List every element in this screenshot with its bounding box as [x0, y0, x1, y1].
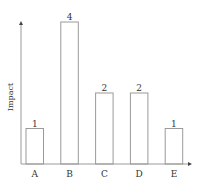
data-label-e: 1 [171, 119, 177, 129]
data-label-d: 2 [136, 83, 142, 93]
x-tick-label-a: A [31, 169, 39, 179]
x-tick-labels: ABCDE [31, 169, 178, 179]
bar-e [165, 129, 183, 165]
bar-b [61, 22, 79, 164]
bar-d [130, 93, 148, 164]
x-tick-label-c: C [101, 169, 108, 179]
bars-group [26, 22, 183, 164]
y-axis-label: Impact [6, 82, 15, 111]
bar-c [96, 93, 114, 164]
data-label-b: 4 [67, 12, 73, 22]
x-tick-label-b: B [66, 169, 73, 179]
x-tick-label-e: E [171, 169, 178, 179]
bar-a [26, 129, 44, 165]
x-tick-label-d: D [136, 169, 143, 179]
bar-chart: Impact ABCDE 14221 [0, 0, 198, 186]
data-label-c: 2 [101, 83, 107, 93]
data-label-a: 1 [32, 119, 38, 129]
